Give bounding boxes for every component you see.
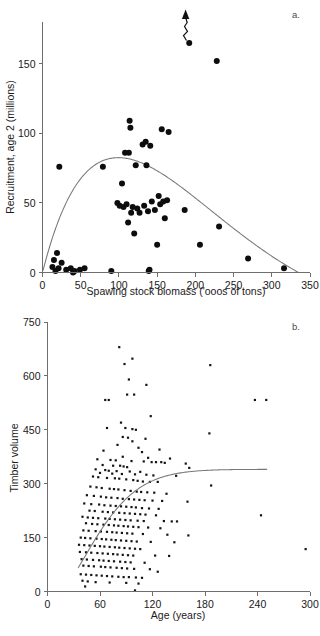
data-point (100, 496, 102, 498)
data-point (79, 551, 81, 553)
data-point (107, 511, 109, 513)
data-point (117, 488, 119, 490)
data-point (113, 560, 115, 562)
data-point (117, 576, 119, 578)
data-point (144, 438, 146, 440)
data-point (95, 468, 97, 470)
data-point (151, 499, 153, 501)
data-point (90, 574, 92, 576)
data-point (106, 575, 108, 577)
data-point (122, 498, 124, 500)
data-point (113, 524, 115, 526)
data-point (245, 256, 251, 262)
data-point (130, 506, 132, 508)
y-tick-label: 50 (24, 197, 36, 209)
panel-b-label: b. (292, 321, 300, 332)
data-point (109, 505, 111, 507)
data-point (141, 203, 147, 209)
data-point (51, 257, 57, 263)
panel-b: b. 060120180240300 0150300450600750 Age … (8, 316, 319, 621)
data-point (159, 527, 161, 529)
data-point (78, 544, 80, 546)
data-point (124, 561, 126, 563)
data-point (91, 523, 93, 525)
data-point (96, 552, 98, 554)
data-point (124, 519, 126, 521)
panel-b-axes (48, 322, 311, 592)
data-point (154, 554, 156, 556)
data-point (88, 510, 90, 512)
data-point (128, 576, 130, 578)
data-point (145, 208, 151, 214)
data-point (137, 520, 139, 522)
data-point (115, 459, 117, 461)
data-point (108, 524, 110, 526)
data-point (149, 568, 151, 570)
data-point (130, 561, 132, 563)
data-point (135, 576, 137, 578)
data-point (260, 514, 262, 516)
data-point (158, 448, 160, 450)
data-point (84, 585, 86, 587)
data-point (101, 538, 103, 540)
data-point (125, 506, 127, 508)
data-point (85, 522, 87, 524)
panel-b-data-points (78, 346, 307, 591)
data-point (83, 544, 85, 546)
data-point (254, 399, 256, 401)
data-point (92, 517, 94, 519)
data-point (116, 531, 118, 533)
panel-a-label: a. (292, 9, 300, 20)
data-point (265, 399, 267, 401)
data-point (127, 525, 129, 527)
data-point (125, 219, 131, 225)
data-point (94, 545, 96, 547)
data-point (141, 451, 143, 453)
data-point (109, 581, 111, 583)
data-point (88, 544, 90, 546)
data-point (81, 580, 83, 582)
x-tick-label: 300 (263, 279, 281, 291)
data-point (114, 546, 116, 548)
data-point (128, 378, 130, 380)
data-point (133, 162, 139, 168)
data-point (122, 456, 124, 458)
data-point (119, 180, 125, 186)
data-point (90, 552, 92, 554)
data-point (135, 429, 137, 431)
data-point (130, 540, 132, 542)
data-point (120, 422, 122, 424)
data-point (145, 384, 147, 386)
data-point (125, 478, 127, 480)
data-point (82, 529, 84, 531)
data-point (86, 494, 88, 496)
data-point (137, 582, 139, 584)
data-point (102, 511, 104, 513)
data-point (108, 560, 110, 562)
panel-b-y-axis-title: Timber volume (8, 423, 20, 492)
data-point (89, 485, 91, 487)
data-point (117, 525, 119, 527)
data-point (156, 193, 162, 199)
data-point (130, 490, 132, 492)
data-point (149, 199, 155, 205)
data-point (98, 503, 100, 505)
data-point (151, 461, 153, 463)
data-point (119, 561, 121, 563)
data-point (95, 581, 97, 583)
data-point (131, 358, 133, 360)
data-point (164, 197, 170, 203)
data-point (208, 432, 210, 434)
data-point (131, 231, 137, 237)
x-tick-label: 350 (301, 279, 319, 291)
data-point (122, 554, 124, 556)
data-point (115, 505, 117, 507)
data-point (109, 488, 111, 490)
data-point (108, 399, 110, 401)
data-point (131, 428, 133, 430)
data-point (118, 346, 120, 348)
data-point (155, 514, 157, 516)
data-point (123, 547, 125, 549)
data-point (157, 571, 159, 573)
data-point (104, 566, 106, 568)
